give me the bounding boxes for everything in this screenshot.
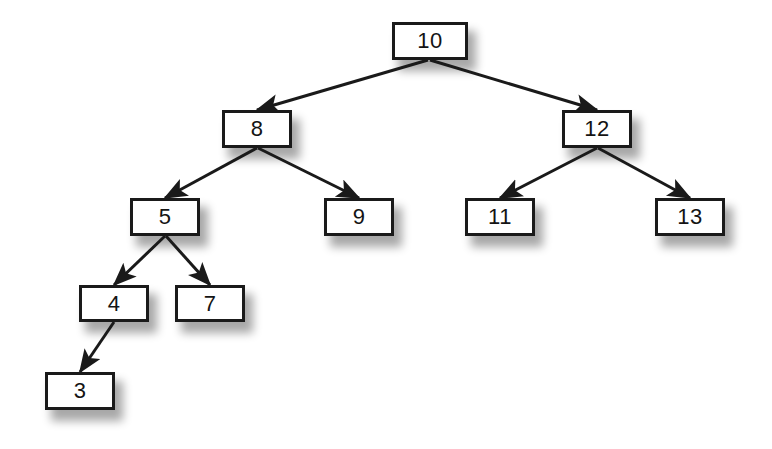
tree-edge-n8-to-n9 <box>258 148 359 198</box>
tree-node-5[interactable]: 5 <box>130 198 200 236</box>
tree-node-label: 12 <box>584 118 609 140</box>
tree-edge-n10-to-n8 <box>257 60 428 110</box>
tree-node-label: 10 <box>417 30 442 52</box>
tree-edge-n8-to-n5 <box>165 148 257 198</box>
tree-node-9[interactable]: 9 <box>324 198 394 236</box>
tree-node-7[interactable]: 7 <box>175 285 245 322</box>
tree-node-label: 3 <box>74 380 87 402</box>
tree-edge-n10-to-n12 <box>430 60 597 110</box>
tree-node-3[interactable]: 3 <box>45 372 115 410</box>
tree-diagram-canvas: 10812591113473 <box>0 0 772 449</box>
tree-edge-n12-to-n11 <box>500 148 597 198</box>
tree-node-label: 4 <box>108 293 121 315</box>
tree-node-label: 13 <box>677 206 702 228</box>
tree-node-label: 11 <box>488 206 512 228</box>
tree-node-label: 8 <box>251 118 264 140</box>
tree-node-13[interactable]: 13 <box>655 198 725 236</box>
tree-edge-n12-to-n13 <box>598 148 690 198</box>
tree-node-11[interactable]: 11 <box>465 198 535 236</box>
tree-node-4[interactable]: 4 <box>79 285 149 322</box>
tree-node-10[interactable]: 10 <box>392 22 468 60</box>
tree-node-label: 5 <box>159 206 172 228</box>
tree-node-label: 7 <box>204 293 217 315</box>
tree-node-12[interactable]: 12 <box>562 110 632 148</box>
tree-node-8[interactable]: 8 <box>222 110 292 148</box>
tree-node-label: 9 <box>353 206 366 228</box>
